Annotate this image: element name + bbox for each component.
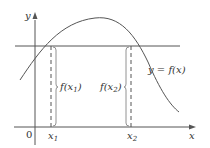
fx1-bracket [53, 47, 58, 126]
x-axis-label: x [189, 131, 195, 141]
x2-label: x2 [127, 131, 137, 143]
origin-label: 0 [26, 130, 32, 140]
x1-label: x1 [48, 131, 58, 143]
curve-label: y = f(x) [148, 65, 186, 75]
fx2-bracket [124, 47, 129, 126]
y-axis-label: y [25, 11, 31, 21]
fx1-label: f(x1) [60, 82, 82, 94]
fx2-label: f(x2) [100, 82, 122, 94]
y-axis-arrow-icon [33, 12, 38, 19]
x-axis-arrow-icon [189, 125, 196, 130]
function-graph-diagram: y x 0 y = f(x) x1 x2 f(x1) f(x2) [0, 0, 210, 148]
